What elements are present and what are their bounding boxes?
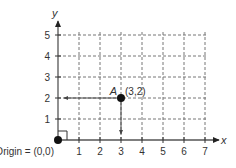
x-tick-label: 3: [118, 146, 124, 157]
y-axis-label: y: [51, 7, 59, 19]
origin-label: Origin = (0,0): [0, 146, 54, 157]
x-tick-label: 2: [97, 146, 103, 157]
x-tick-label: 7: [202, 146, 208, 157]
coordinate-plane: xy123456712345 Origin = (0,0)A(3,2): [0, 0, 236, 168]
y-tick-label: 3: [44, 72, 50, 83]
x-tick-label: 6: [181, 146, 187, 157]
x-tick-label: 5: [160, 146, 166, 157]
origin-point: [54, 136, 62, 144]
point-a: [117, 94, 125, 102]
axes: [58, 21, 219, 140]
y-tick-label: 2: [44, 93, 50, 104]
y-tick-label: 4: [44, 51, 50, 62]
point-a-coords: (3,2): [125, 86, 146, 97]
tick-labels: xy123456712345: [44, 7, 227, 157]
y-tick-label: 5: [44, 30, 50, 41]
x-tick-label: 4: [139, 146, 145, 157]
x-axis-label: x: [220, 134, 227, 146]
x-tick-label: 1: [76, 146, 82, 157]
point-a-name: A: [109, 85, 117, 97]
y-tick-label: 1: [44, 114, 50, 125]
